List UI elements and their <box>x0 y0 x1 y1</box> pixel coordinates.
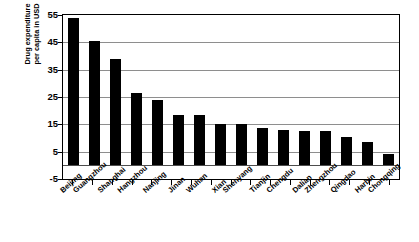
y-tick-label: 55 <box>36 10 58 19</box>
bars-layer <box>63 15 399 179</box>
bar-slot <box>252 15 273 179</box>
y-tick-label: 15 <box>36 119 58 128</box>
x-label-slot: Nanjing <box>147 186 168 242</box>
x-label-slot: Dalian <box>294 186 315 242</box>
x-label-slot: Beijing <box>63 186 84 242</box>
bar-slot <box>63 15 84 179</box>
y-tick-mark <box>58 15 62 16</box>
y-tick-mark <box>58 152 62 153</box>
bar <box>68 18 79 166</box>
x-label-slot: Chongqing <box>378 186 399 242</box>
x-label-slot: Shenyang <box>231 186 252 242</box>
y-tick-label: -5 <box>36 174 58 183</box>
bar <box>341 137 352 166</box>
bar <box>89 41 100 165</box>
x-label-slot: Xian <box>210 186 231 242</box>
bar-slot <box>315 15 336 179</box>
y-tick-mark <box>58 70 62 71</box>
x-axis-tick-labels: BeijingGuangzhouShanghaiHangzhouNanjingJ… <box>63 186 399 242</box>
x-label-slot: Qingdao <box>336 186 357 242</box>
bar-slot <box>357 15 378 179</box>
x-label-slot: Chengdu <box>273 186 294 242</box>
y-tick-label: 35 <box>36 65 58 74</box>
bar <box>257 128 268 165</box>
bar <box>215 124 226 165</box>
y-tick-mark <box>58 97 62 98</box>
y-axis-tick-labels: 55453525155-5 <box>32 0 58 242</box>
bar-slot <box>189 15 210 179</box>
bar <box>194 115 205 166</box>
y-tick-mark <box>58 124 62 125</box>
y-axis-title-line-1: Drug expenditure <box>23 3 32 64</box>
x-tick-mark <box>329 180 330 185</box>
x-label-slot: Shanghai <box>105 186 126 242</box>
y-tick-label: 45 <box>36 37 58 46</box>
x-tick-mark <box>389 180 390 185</box>
bar-slot <box>147 15 168 179</box>
bar-slot <box>210 15 231 179</box>
bar <box>278 130 289 166</box>
bar <box>299 131 310 165</box>
bar <box>131 93 142 165</box>
y-tick-label: 25 <box>36 92 58 101</box>
x-label-slot: Wuhan <box>189 186 210 242</box>
bar-slot <box>273 15 294 179</box>
bar-slot <box>231 15 252 179</box>
bar <box>362 142 373 165</box>
bar-slot <box>336 15 357 179</box>
x-label-slot: Hangzhou <box>126 186 147 242</box>
bar-slot <box>294 15 315 179</box>
x-tick-mark <box>211 180 212 185</box>
bar <box>236 124 247 165</box>
bar <box>173 115 184 166</box>
x-label-slot: Jinan <box>168 186 189 242</box>
x-tick-mark <box>290 180 291 185</box>
bar <box>320 131 331 165</box>
bar-slot <box>126 15 147 179</box>
bar-slot <box>84 15 105 179</box>
bar <box>152 100 163 166</box>
bar-slot <box>168 15 189 179</box>
y-tick-label: 5 <box>36 147 58 156</box>
bar-slot <box>378 15 399 179</box>
bar-slot <box>105 15 126 179</box>
x-label-slot: Zhengzhou <box>315 186 336 242</box>
bar <box>110 59 121 166</box>
y-tick-mark <box>58 42 62 43</box>
x-label-slot: Harbin <box>357 186 378 242</box>
y-tick-mark <box>58 179 62 180</box>
bar-chart: Drug expenditure per capita in USD 55453… <box>0 0 419 242</box>
